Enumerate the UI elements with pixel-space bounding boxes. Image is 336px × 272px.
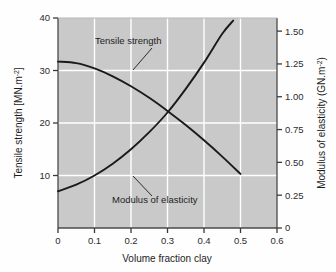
tick-label-right: 0.50 <box>285 157 304 168</box>
tick-label-bottom: 0 <box>55 235 60 246</box>
tick-label-bottom: 0.2 <box>124 235 137 246</box>
right-axis-tick-labels: 00.250.500.751.001.251.50 <box>285 26 304 234</box>
tick-label-right: 0.75 <box>285 124 304 135</box>
tick-label-left: 20 <box>39 117 50 128</box>
tick-label-left: 40 <box>39 12 50 23</box>
tick-label-bottom: 0.6 <box>270 235 283 246</box>
tick-label-left: 30 <box>39 65 50 76</box>
tick-label-left: 10 <box>39 170 50 181</box>
chart-canvas: 10203040 00.250.500.751.001.251.50 00.10… <box>0 0 336 272</box>
tick-label-bottom: 0.5 <box>234 235 247 246</box>
tick-label-right: 1.25 <box>285 58 304 69</box>
tick-label-bottom: 0.1 <box>88 235 101 246</box>
tick-label-bottom: 0.4 <box>197 235 210 246</box>
chart-page: 10203040 00.250.500.751.001.251.50 00.10… <box>0 0 336 272</box>
tick-label-bottom: 0.3 <box>161 235 174 246</box>
right-axis-ticks <box>277 31 282 228</box>
left-axis-tick-labels: 10203040 <box>39 12 50 181</box>
tick-label-right: 1.50 <box>285 26 304 37</box>
annotation-label: Tensile strength <box>95 35 162 46</box>
tick-label-right: 0.25 <box>285 190 304 201</box>
x-axis-title: Volume fraction clay <box>122 253 212 264</box>
tick-label-right: 1.00 <box>285 91 304 102</box>
bottom-axis-ticks <box>58 228 277 233</box>
annotation-label: Modulus of elasticity <box>112 194 198 205</box>
bottom-axis-tick-labels: 00.10.20.30.40.50.6 <box>55 235 283 246</box>
left-axis-ticks <box>53 18 58 176</box>
tick-label-right: 0 <box>285 222 290 233</box>
y2-axis-title: Modulus of elasticity (GN.m-2) <box>316 57 327 189</box>
y-axis-title: Tensile strength [MN.m-2] <box>13 67 24 178</box>
